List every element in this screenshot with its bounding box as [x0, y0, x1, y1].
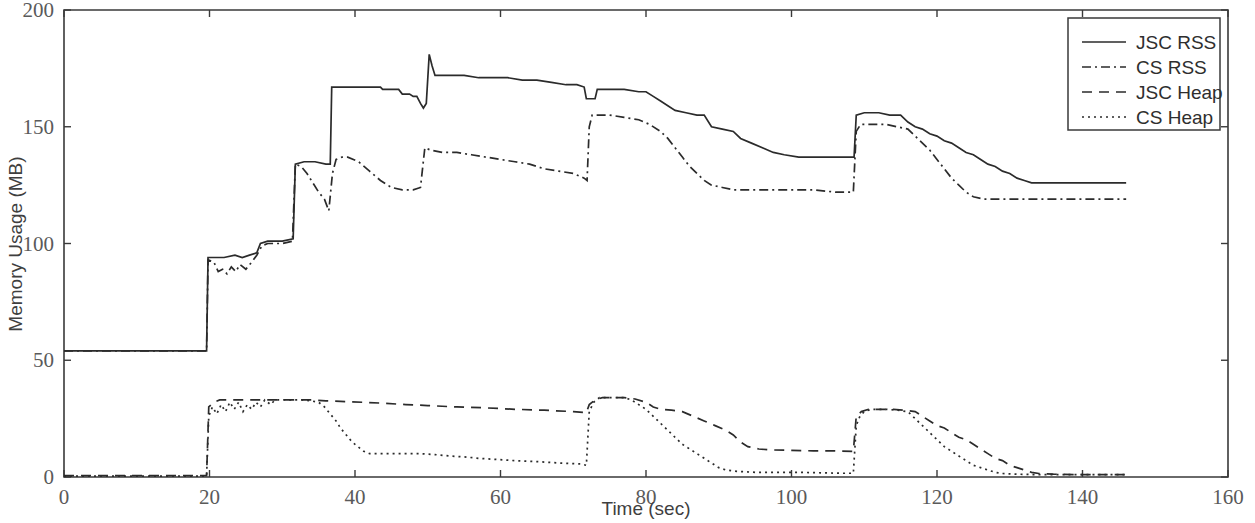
- legend-label-cs-rss: CS RSS: [1136, 57, 1207, 78]
- x-axis-title: Time (sec): [601, 498, 690, 519]
- y-tick-label: 200: [23, 0, 55, 22]
- y-axis-ticks: [64, 10, 1228, 477]
- x-tick-label: 20: [199, 485, 220, 509]
- y-tick-label: 0: [44, 465, 55, 489]
- legend-label-jsc-rss: JSC RSS: [1136, 32, 1216, 53]
- y-tick-label: 150: [23, 115, 55, 139]
- y-tick-label: 100: [23, 232, 55, 256]
- series-line-jsc-rss: [64, 54, 1126, 351]
- x-tick-label: 140: [1067, 485, 1099, 509]
- x-tick-label: 0: [59, 485, 70, 509]
- y-axis-tick-labels: 050100150200: [23, 0, 55, 489]
- y-axis-title: Memory Usage (MB): [5, 156, 26, 331]
- x-tick-label: 60: [490, 485, 511, 509]
- series-line-cs-heap: [64, 398, 1126, 476]
- x-tick-label: 120: [921, 485, 953, 509]
- data-series-group: [64, 54, 1126, 476]
- plot-frame: [64, 10, 1228, 477]
- legend-label-jsc-heap: JSC Heap: [1136, 82, 1223, 103]
- x-tick-label: 160: [1212, 485, 1244, 509]
- chart-canvas: 020406080100120140160 050100150200 Time …: [0, 0, 1255, 523]
- chart-legend: JSC RSSCS RSSJSC HeapCS Heap: [1068, 18, 1223, 130]
- x-tick-label: 40: [345, 485, 366, 509]
- series-line-jsc-heap: [64, 398, 1126, 476]
- legend-label-cs-heap: CS Heap: [1136, 107, 1213, 128]
- series-line-cs-rss: [64, 115, 1126, 351]
- x-axis-ticks: [64, 10, 1228, 477]
- y-tick-label: 50: [33, 348, 54, 372]
- x-tick-label: 100: [776, 485, 808, 509]
- memory-usage-chart-figure: 020406080100120140160 050100150200 Time …: [0, 0, 1255, 523]
